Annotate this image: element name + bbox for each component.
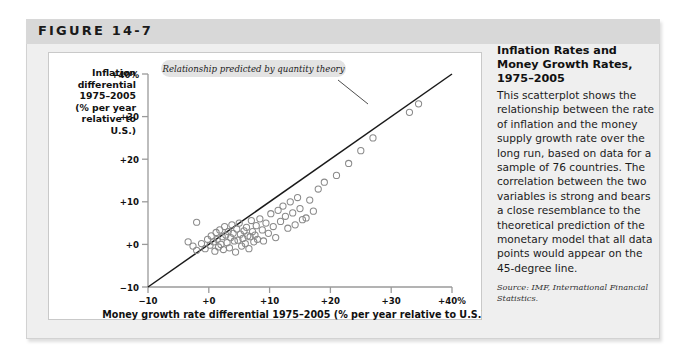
scatter-point [310, 208, 316, 214]
scatter-point [303, 215, 309, 221]
y-tick-label: −10 [120, 283, 139, 293]
scatter-point [263, 220, 269, 226]
y-tick-label: +0 [126, 240, 139, 250]
scatter-point [294, 194, 300, 200]
callout-label: Relationship predicted by quantity theor… [161, 64, 344, 74]
scatter-point [232, 249, 238, 255]
annotation-callout: Relationship predicted by quantity theor… [161, 60, 368, 104]
y-axis-title-line-2: differential [78, 79, 136, 90]
y-tick-label: +20 [120, 155, 139, 165]
scatter-point [297, 206, 303, 212]
scatter-point [260, 238, 266, 244]
scatter-point [253, 223, 259, 229]
scatter-point [406, 109, 412, 115]
caption-column: Inflation Rates and Money Growth Rates, … [497, 44, 657, 311]
caption-title: Inflation Rates and Money Growth Rates, … [497, 44, 657, 86]
scatter-point [346, 160, 352, 166]
scatter-point [190, 243, 196, 249]
scatter-point [265, 230, 271, 236]
y-axis-title-line-4: (% per year [75, 102, 136, 113]
scatter-point [358, 148, 364, 154]
scatter-point [257, 216, 263, 222]
x-axis-title: Money growth rate differential 1975–2005… [102, 309, 482, 320]
scatter-point [307, 197, 313, 203]
caption-body: This scatterplot shows the relationship … [497, 88, 657, 275]
x-axis-ticks: −10 +0 +10 +20 +30 +40% [138, 287, 466, 306]
scatter-point [292, 222, 298, 228]
scatter-point [268, 211, 274, 217]
scatter-point [282, 213, 288, 219]
scatter-point [290, 210, 296, 216]
scatter-point [321, 179, 327, 185]
scatter-point [273, 234, 279, 240]
scatter-point [248, 217, 254, 223]
y-axis-title-line-1: Inflation [92, 67, 136, 78]
scatter-point [285, 225, 291, 231]
x-tick-label: +20 [321, 296, 340, 306]
y-axis-title-line-3: 1975–2005 [80, 90, 136, 101]
scatter-point [315, 186, 321, 192]
scatter-point [226, 245, 232, 251]
x-tick-label: −10 [138, 296, 157, 306]
scatter-chart: +40% +30 +20 +10 +0 −10 −10 +0 +10 +20 +… [48, 52, 482, 320]
figure-page: FIGURE 14-7 +40% +30 +20 +10 +0 −10 [0, 0, 686, 363]
scatter-point [280, 203, 286, 209]
scatter-point [194, 219, 200, 225]
y-axis-title-line-5: relative to [82, 113, 136, 124]
callout-leader-line [338, 80, 368, 104]
scatter-point [415, 101, 421, 107]
scatter-point [277, 218, 283, 224]
scatter-point [204, 236, 210, 242]
y-axis-title-line-6: U.S.) [110, 125, 136, 136]
scatter-point [333, 172, 339, 178]
figure-number-label: FIGURE 14-7 [38, 23, 153, 38]
y-tick-label: +10 [120, 197, 139, 207]
scatter-point [220, 246, 226, 252]
scatter-point [259, 227, 265, 233]
scatter-point [370, 135, 376, 141]
caption-source: Source: IMF, International Financial Sta… [497, 282, 657, 303]
scatter-point [287, 199, 293, 205]
scatter-point [299, 217, 305, 223]
scatter-point [246, 246, 252, 252]
reference-line-45deg [148, 74, 452, 287]
scatter-point [270, 223, 276, 229]
scatter-point [212, 248, 218, 254]
x-tick-label: +0 [202, 296, 215, 306]
x-tick-label: +40% [438, 296, 466, 306]
x-tick-label: +10 [260, 296, 279, 306]
y-axis-title: Inflation differential 1975–2005 (% per … [75, 67, 136, 136]
x-tick-label: +30 [382, 296, 401, 306]
